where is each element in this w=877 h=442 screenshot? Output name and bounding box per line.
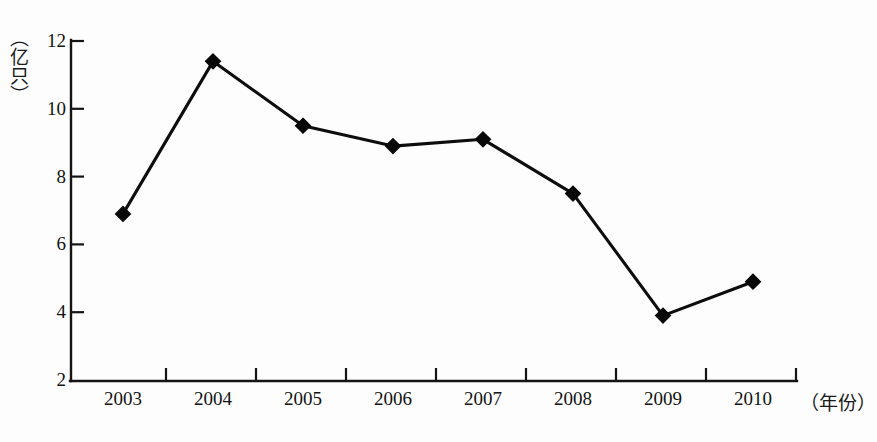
axes xyxy=(70,40,797,381)
data-point-marker xyxy=(476,132,491,147)
plot-area xyxy=(0,0,877,442)
line-chart: （亿只） 12 10 8 6 4 2 2003 2004 2005 2006 2… xyxy=(0,0,877,442)
data-point-marker xyxy=(746,274,761,289)
data-point-marker xyxy=(116,206,131,221)
series-markers xyxy=(116,54,761,323)
data-point-marker xyxy=(386,139,401,154)
data-series xyxy=(116,54,761,323)
series-line-path xyxy=(123,61,753,315)
